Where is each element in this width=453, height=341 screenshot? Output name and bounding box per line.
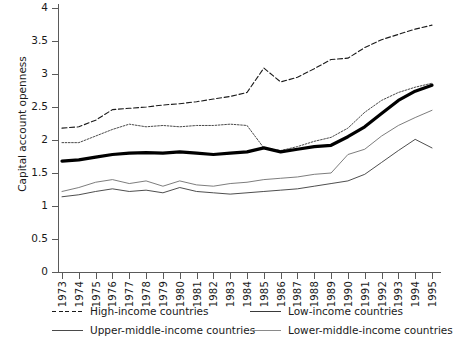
legend-swatch-solid-mid: [52, 326, 83, 334]
x-tick-mark: [247, 273, 248, 279]
x-tick-mark: [398, 273, 399, 279]
x-tick-mark: [96, 273, 97, 279]
legend-item[interactable]: Low-income countries: [250, 305, 403, 317]
legend-swatch-solid-dark: [250, 307, 281, 315]
legend-label: Low-income countries: [288, 305, 403, 317]
x-tick-mark: [297, 273, 298, 279]
x-tick-mark: [197, 273, 198, 279]
series-line: [62, 25, 432, 128]
y-tick-mark: [52, 272, 58, 273]
x-tick-mark: [314, 273, 315, 279]
y-tick-label: 3.5: [0, 35, 48, 45]
x-tick-mark: [146, 273, 147, 279]
plot-area: [58, 4, 440, 272]
legend-label: Upper-middle-income countries: [90, 324, 255, 336]
x-tick-mark: [415, 273, 416, 279]
y-tick-label: 2: [0, 134, 48, 144]
series-line: [62, 85, 432, 161]
chart-legend: High-income countriesLow-income countrie…: [0, 303, 450, 341]
x-tick-mark: [129, 273, 130, 279]
y-tick-label: 0.5: [0, 233, 48, 243]
y-tick-label: 3: [0, 68, 48, 78]
x-tick-mark: [112, 273, 113, 279]
x-tick-mark: [264, 273, 265, 279]
legend-item[interactable]: High-income countries: [52, 305, 209, 317]
y-tick-label: 1: [0, 200, 48, 210]
x-tick-mark: [180, 273, 181, 279]
y-tick-label: 1.5: [0, 167, 48, 177]
x-tick-mark: [382, 273, 383, 279]
legend-item[interactable]: Upper-middle-income countries: [52, 324, 255, 336]
x-tick-mark: [432, 273, 433, 279]
x-tick-mark: [213, 273, 214, 279]
x-tick-mark: [163, 273, 164, 279]
legend-label: High-income countries: [90, 305, 209, 317]
legend-item[interactable]: Lower-middle-income countries: [250, 324, 453, 336]
x-tick-mark: [281, 273, 282, 279]
x-tick-mark: [230, 273, 231, 279]
x-tick-mark: [62, 273, 63, 279]
series-lines: [58, 4, 440, 272]
legend-swatch-solid-light: [250, 326, 281, 334]
legend-swatch-dashed: [52, 307, 83, 315]
y-tick-label: 0: [0, 266, 48, 276]
y-tick-label: 2.5: [0, 101, 48, 111]
x-tick-mark: [79, 273, 80, 279]
x-tick-mark: [331, 273, 332, 279]
legend-label: Lower-middle-income countries: [288, 324, 453, 336]
x-tick-mark: [365, 273, 366, 279]
x-axis-line: [58, 272, 441, 273]
x-tick-mark: [348, 273, 349, 279]
y-tick-label: 4: [0, 2, 48, 12]
series-line: [62, 139, 432, 196]
